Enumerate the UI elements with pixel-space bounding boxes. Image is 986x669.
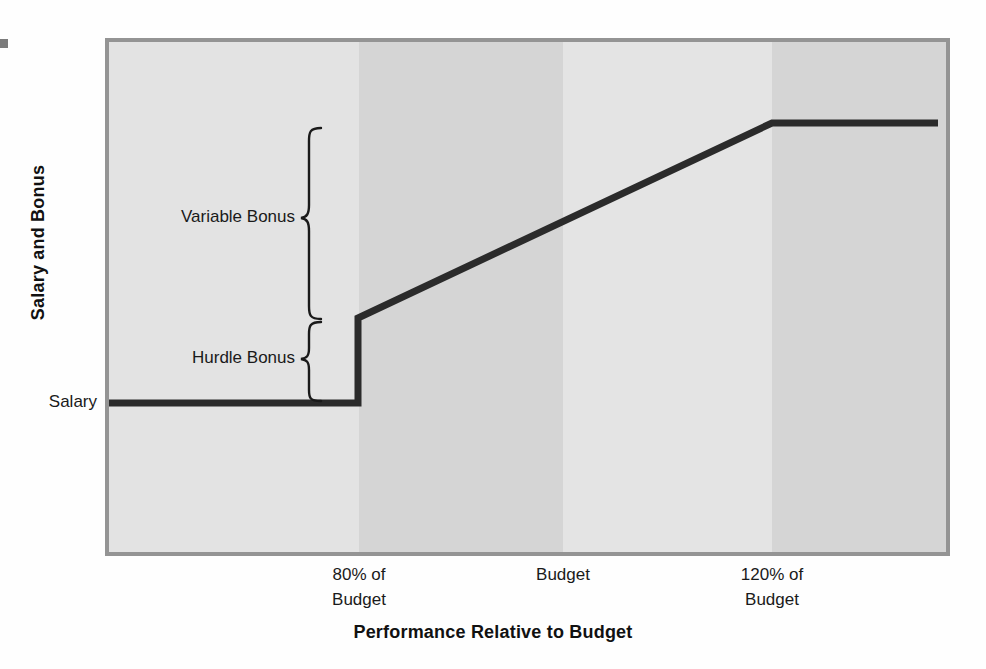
xtick-label-120-percent: 120% of Budget — [687, 562, 857, 612]
annotation-hurdle-bonus: Hurdle Bonus — [120, 348, 295, 368]
plot-area — [105, 38, 950, 556]
band-100-to-120 — [563, 42, 772, 552]
xtick-80-line2: Budget — [274, 587, 444, 612]
xtick-label-budget: Budget — [478, 562, 648, 587]
y-axis-title: Salary and Bonus — [28, 143, 49, 343]
xtick-80-line1: 80% of — [274, 562, 444, 587]
scan-artifact-mark — [0, 39, 8, 48]
x-axis-title: Performance Relative to Budget — [0, 622, 986, 643]
xtick-label-80-percent: 80% of Budget — [274, 562, 444, 612]
xtick-120-line2: Budget — [687, 587, 857, 612]
xtick-budget-line1: Budget — [478, 562, 648, 587]
compensation-chart-figure: Salary and Bonus Performance Relative to… — [0, 0, 986, 669]
band-80-to-100 — [359, 42, 563, 552]
band-below-80 — [109, 42, 359, 552]
annotation-variable-bonus: Variable Bonus — [120, 207, 295, 227]
band-above-120 — [772, 42, 946, 552]
ytick-label-salary: Salary — [12, 392, 97, 412]
xtick-120-line1: 120% of — [687, 562, 857, 587]
